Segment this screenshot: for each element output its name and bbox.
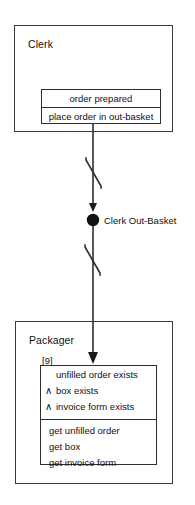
action-row: get unfilled order <box>41 423 156 439</box>
packager-condition-section: unfilled order exists ∧ box exists ∧ inv… <box>41 366 156 419</box>
condition-row: ∧ box exists <box>41 385 156 401</box>
condition-row: unfilled order exists <box>41 369 156 385</box>
action-row: get invoice form <box>41 455 156 471</box>
out-basket-label: Clerk Out-Basket <box>104 215 176 226</box>
out-basket-node-icon <box>87 214 99 226</box>
role-title-packager: Packager <box>29 334 74 346</box>
clerk-state-label: order prepared <box>42 90 160 107</box>
condition-text: invoice form exists <box>56 401 134 412</box>
role-box-clerk[interactable]: Clerk order prepared place order in out-… <box>14 25 173 132</box>
diagram-canvas: Clerk order prepared place order in out-… <box>0 0 195 505</box>
condition-operator: ∧ <box>45 385 56 396</box>
rule-box-packager[interactable]: unfilled order exists ∧ box exists ∧ inv… <box>40 365 157 465</box>
role-title-clerk: Clerk <box>28 38 53 50</box>
condition-operator: ∧ <box>45 401 56 412</box>
activity-box-clerk[interactable]: order prepared place order in out-basket <box>41 89 161 124</box>
packager-action-section: get unfilled order get box get invoice f… <box>41 419 156 466</box>
condition-text: box exists <box>56 385 98 396</box>
condition-text: unfilled order exists <box>56 369 138 380</box>
action-row: get box <box>41 439 156 455</box>
clerk-action-label: place order in out-basket <box>42 107 160 124</box>
condition-row: ∧ invoice form exists <box>41 401 156 417</box>
arrowhead-down-icon-upper <box>89 203 97 212</box>
